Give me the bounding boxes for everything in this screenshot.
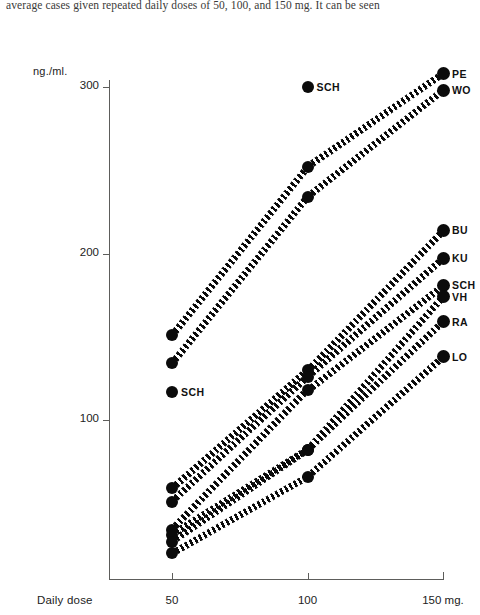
y-tick-300: [103, 87, 110, 88]
x-tick-label-150: 150 mg.: [403, 594, 480, 606]
connector-wo-0: [169, 195, 310, 366]
series-label-ku: KU: [452, 252, 468, 264]
outlier-point-sch-50: [166, 386, 178, 398]
x-tick-label-100: 100: [268, 594, 348, 606]
data-point-bu-150: [437, 224, 450, 237]
data-point-ra-150: [437, 315, 450, 328]
data-point-sch-100: [302, 384, 314, 396]
y-tick-label-300: 300: [0, 79, 99, 91]
data-point-ra-50: [166, 536, 178, 548]
data-point-lo-150: [437, 350, 450, 363]
outlier-point-sch-100: [302, 81, 314, 93]
y-tick-label-200: 200: [0, 246, 99, 258]
y-tick-label-100: 100: [0, 412, 99, 424]
series-label-ra: RA: [452, 316, 468, 328]
data-point-lo-50: [166, 547, 178, 559]
y-tick-200: [103, 254, 110, 255]
outlier-label-sch-100: SCH: [317, 81, 340, 93]
series-label-vh: VH: [452, 291, 467, 303]
series-label-lo: LO: [452, 351, 467, 363]
data-point-wo-150: [437, 84, 450, 97]
data-point-vh-150: [437, 290, 450, 303]
y-axis-unit-label: ng./ml.: [33, 65, 67, 77]
data-point-pe-100: [302, 161, 314, 173]
x-axis-line: [109, 579, 444, 580]
plot-area: ng./ml. 100200300 50100150 mg. PEWOBUKUS…: [0, 0, 480, 615]
data-point-wo-50: [166, 357, 178, 369]
x-axis-title: Daily dose: [37, 594, 93, 606]
y-axis-line: [109, 80, 110, 580]
x-tick-label-50: 50: [132, 594, 212, 606]
figure-root: average cases given repeated daily doses…: [0, 0, 480, 615]
data-point-wo-100: [302, 191, 314, 203]
data-point-ra-100: [302, 444, 314, 456]
connector-wo-1: [305, 88, 445, 200]
x-tick-100: [308, 573, 309, 580]
series-label-wo: WO: [452, 84, 471, 96]
data-point-lo-100: [302, 471, 314, 483]
data-point-ku-100: [302, 371, 314, 383]
x-tick-150: [443, 572, 444, 580]
data-point-pe-50: [166, 329, 178, 341]
data-point-ku-150: [437, 252, 450, 265]
series-label-sch: SCH: [452, 279, 475, 291]
x-tick-50: [172, 573, 173, 580]
series-label-bu: BU: [452, 224, 468, 236]
series-label-pe: PE: [452, 68, 467, 80]
outlier-label-sch-50: SCH: [181, 386, 204, 398]
data-point-ku-50: [166, 496, 178, 508]
data-point-pe-150: [437, 67, 450, 80]
y-tick-100: [103, 420, 110, 421]
connector-pe-0: [169, 165, 310, 338]
